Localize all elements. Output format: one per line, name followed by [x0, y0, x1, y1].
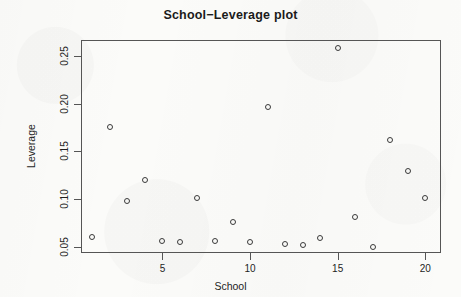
data-point [107, 124, 113, 130]
x-axis-tick-mark [338, 253, 339, 260]
data-point [89, 234, 95, 240]
data-point [230, 219, 236, 225]
y-axis-tick-mark [74, 56, 81, 57]
y-axis-tick-mark [74, 104, 81, 105]
data-point [422, 195, 428, 201]
y-axis-tick-mark [74, 199, 81, 200]
x-axis-tick-label: 10 [244, 263, 255, 274]
data-point [247, 239, 253, 245]
x-axis-tick-label: 15 [332, 263, 343, 274]
data-point [124, 198, 130, 204]
data-point [405, 168, 411, 174]
data-point [212, 238, 218, 244]
data-point [317, 235, 323, 241]
page-title: School−Leverage plot [0, 8, 461, 22]
x-axis-tick-mark [425, 253, 426, 260]
data-point [370, 244, 376, 250]
scatter-plot-figure: School−Leverage plot 0.050.100.150.200.2… [0, 0, 461, 297]
x-axis-title: School [0, 280, 461, 292]
data-point [282, 241, 288, 247]
plot-data-area [81, 40, 441, 253]
data-point [194, 195, 200, 201]
y-axis-tick-mark [74, 151, 81, 152]
y-axis-tick-mark [74, 247, 81, 248]
y-axis-title: Leverage [25, 124, 37, 168]
data-point [335, 45, 341, 51]
data-point [265, 104, 271, 110]
data-point [159, 238, 165, 244]
data-point [300, 242, 306, 248]
x-axis-tick-mark [250, 253, 251, 260]
x-axis-tick-label: 5 [160, 263, 166, 274]
data-point [177, 239, 183, 245]
x-axis-tick-label: 20 [420, 263, 431, 274]
x-axis-tick-mark [162, 253, 163, 260]
data-point [352, 214, 358, 220]
data-point [142, 177, 148, 183]
data-point [387, 137, 393, 143]
